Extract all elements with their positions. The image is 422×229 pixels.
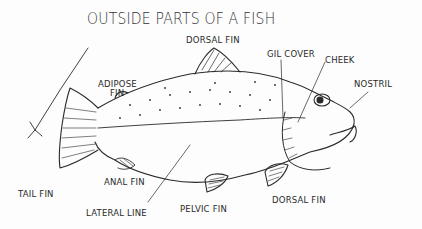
label-tail-fin: TAIL FIN	[18, 190, 54, 199]
label-anal-fin: ANAL FIN	[104, 178, 145, 187]
label-cheek: CHEEK	[325, 56, 355, 65]
label-pelvic-fin: PELVIC FIN	[180, 205, 227, 214]
gill-cover	[282, 112, 330, 170]
pointer-lateral-line	[148, 145, 190, 202]
fishing-line	[35, 48, 88, 130]
lower-fin	[265, 164, 288, 186]
pointer-cheek	[298, 62, 325, 122]
label-lateral-line: LATERAL LINE	[86, 209, 147, 218]
fish-diagram: OUTSIDE PARTS OF A FISH	[0, 0, 422, 229]
label-nostril: NOSTRIL	[354, 80, 392, 89]
label-gil-cover: GIL COVER	[267, 50, 315, 59]
label-dorsal-fin-top: DORSAL FIN	[186, 36, 240, 45]
pelvic-fin	[205, 174, 228, 192]
lateral-line	[98, 118, 305, 128]
label-adipose-fin-line2: FIN	[110, 89, 124, 98]
label-dorsal-fin-bottom: DORSAL FIN	[272, 196, 326, 205]
pointer-nostril	[350, 92, 368, 108]
pointer-gil-cover	[281, 60, 283, 118]
